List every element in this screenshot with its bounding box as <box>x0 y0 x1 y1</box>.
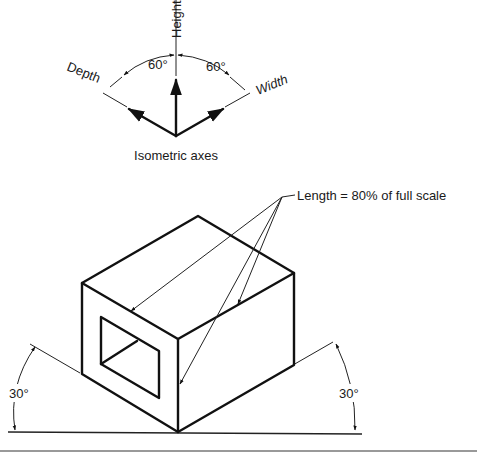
isometric-box-figure: Length = 80% of full scale 30° 30° <box>6 188 446 434</box>
callout-leader-3 <box>180 197 282 384</box>
reference-line-left <box>30 344 80 373</box>
width-axis-label: Width <box>254 71 290 97</box>
ground-line <box>8 432 362 434</box>
width-axis-extension <box>225 93 250 107</box>
angle-label-30-right: 30° <box>339 386 359 401</box>
height-axis-label: Height <box>169 0 184 38</box>
isometric-axes-figure: 60° 60° Height Depth Width Isometric axe… <box>65 0 290 163</box>
box-opening-inner-edge <box>101 341 137 364</box>
angle-label-left: 60° <box>148 57 168 72</box>
angle-label-right: 60° <box>206 59 226 74</box>
isometric-diagram: 60° 60° Height Depth Width Isometric axe… <box>0 0 477 454</box>
depth-axis-arrow <box>129 109 176 136</box>
axes-caption: Isometric axes <box>134 148 218 163</box>
length-callout: Length = 80% of full scale <box>297 188 446 203</box>
angle-tick-right <box>230 77 245 90</box>
reference-line-right <box>293 342 333 365</box>
angle-label-30-left: 30° <box>9 386 29 401</box>
angle-tick-left <box>110 77 122 87</box>
box-top-front-edges <box>82 273 294 339</box>
depth-axis-extension <box>103 93 127 107</box>
callout-leader-shoulder <box>282 195 295 197</box>
depth-axis-label: Depth <box>65 59 103 86</box>
width-axis-arrow <box>176 109 223 136</box>
